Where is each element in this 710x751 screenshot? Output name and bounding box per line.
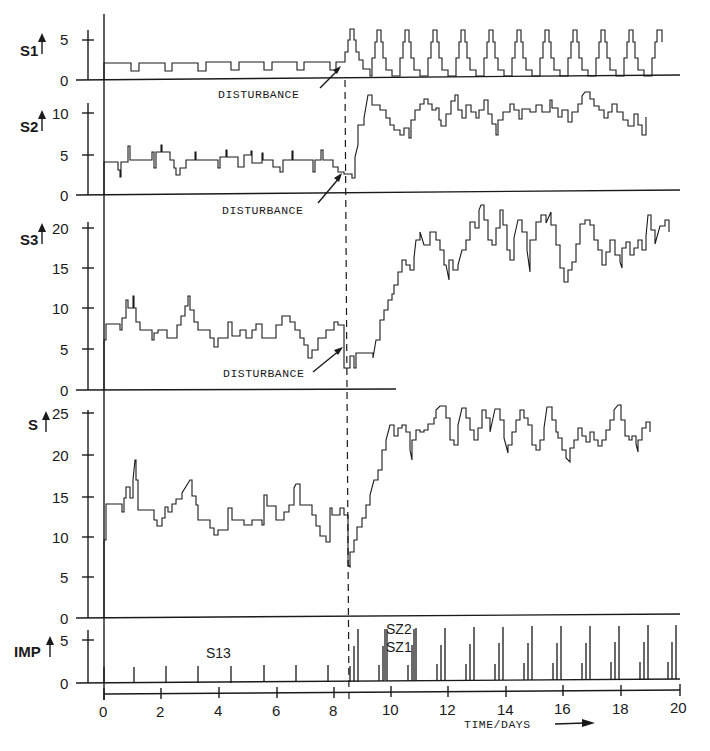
up-arrow-icon: [38, 110, 46, 131]
s2-trace: [104, 92, 646, 195]
tick-label: 5: [60, 632, 68, 649]
imp-label: IMP: [14, 643, 41, 660]
baselines: [76, 75, 680, 683]
figure: 5 0 10 5 0 20 15 10 5 0 25 20 15 10 5 0 …: [0, 0, 710, 751]
tick-label: 20: [52, 447, 69, 464]
s1-label: S1: [20, 42, 38, 59]
arrow-head-icon: [334, 173, 342, 182]
tick-label: 0: [60, 610, 68, 627]
s2-label: S2: [20, 118, 38, 135]
tick-label: 20: [52, 220, 69, 237]
up-arrow-icon: [42, 411, 50, 432]
s1-trace: [104, 29, 662, 80]
x-tick-label: 4: [214, 702, 222, 719]
x-tick-label: 14: [497, 701, 514, 718]
up-arrow-icon: [46, 636, 54, 657]
x-tick-labels: 0 2 4 6 8 10 12 14 16 18 20: [99, 699, 687, 720]
tick-label: 0: [60, 72, 68, 89]
tick-label: 5: [60, 31, 68, 48]
x-tick-label: 8: [329, 702, 337, 719]
tick-label: 5: [60, 147, 68, 164]
up-arrow-icon: [38, 223, 46, 244]
x-tick-label: 16: [554, 700, 571, 717]
disturbance-label-s3: DISTURBANCE: [223, 367, 304, 380]
tick-label: 15: [52, 260, 69, 277]
arrow-head-icon: [333, 66, 341, 74]
disturbance-label-s1: DISTURBANCE: [218, 88, 299, 101]
x-tick-label: 6: [272, 702, 280, 719]
tick-label: 10: [52, 105, 69, 122]
up-arrow-icon: [38, 33, 46, 54]
x-tick-label: 12: [439, 701, 456, 718]
s-label: S: [28, 416, 38, 433]
s3-trace: [104, 205, 669, 390]
tick-label: 25: [52, 405, 69, 422]
x-tick-label: 0: [99, 703, 107, 720]
disturbance-annotations: DISTURBANCE DISTURBANCE DISTURBANCE: [218, 66, 343, 380]
x-tick-label: 18: [612, 700, 629, 717]
tick-label: 0: [60, 382, 68, 399]
disturbance-line: [345, 80, 349, 700]
disturbance-label-s2: DISTURBANCE: [222, 204, 303, 217]
s3-label: S3: [20, 231, 38, 248]
tick-label: 5: [60, 569, 68, 586]
tick-label: 0: [60, 675, 68, 692]
s13-label: S13: [206, 645, 231, 661]
tick-label: 10: [52, 300, 69, 317]
tick-label: 15: [52, 489, 69, 506]
x-axis-label: TIME/DAYS: [464, 718, 531, 731]
panel-labels: S1 S2 S3 S IMP: [14, 33, 54, 660]
x-tick-label: 2: [156, 703, 164, 720]
tick-label: 10: [52, 529, 69, 546]
s-total-trace: [104, 405, 650, 618]
sz1-label: SZ1: [386, 639, 412, 655]
right-arrow-icon: [555, 719, 595, 727]
x-tick-label: 10: [382, 701, 399, 718]
x-tick-label: 20: [670, 699, 687, 716]
y-tick-labels: 5 0 10 5 0 20 15 10 5 0 25 20 15 10 5 0 …: [52, 31, 69, 692]
y-axes: [88, 14, 104, 700]
tick-label: 0: [60, 187, 68, 204]
x-axis: [104, 684, 680, 700]
sz2-label: SZ2: [386, 621, 412, 637]
tick-label: 5: [60, 341, 68, 358]
